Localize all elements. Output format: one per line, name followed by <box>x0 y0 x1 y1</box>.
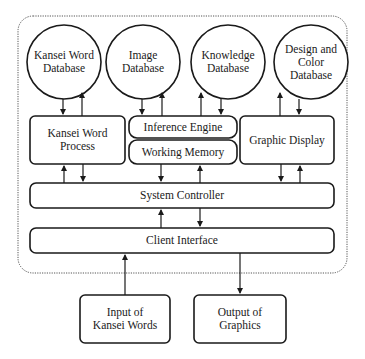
client-interface: Client Interface <box>30 228 334 253</box>
graphic-display: Graphic Display <box>240 116 334 164</box>
image-database: Image Database <box>106 40 180 84</box>
output-of-graphics: Output of Graphics <box>194 295 286 343</box>
input-of-kansei-words: Input of Kansei Words <box>80 295 170 343</box>
inference-engine: Inference Engine <box>129 116 237 138</box>
knowledge-database: Knowledge Database <box>191 40 265 84</box>
design-color-database: Design and Color Database <box>274 36 348 88</box>
system-controller: System Controller <box>30 183 334 208</box>
working-memory: Working Memory <box>129 140 237 164</box>
kansei-word-process: Kansei Word Process <box>30 116 125 164</box>
kansei-word-database: Kansei Word Database <box>27 40 101 84</box>
